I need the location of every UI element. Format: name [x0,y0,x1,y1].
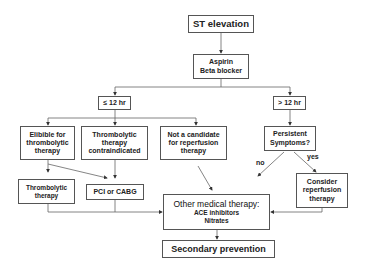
node-thrombolytic-therapy: Thrombolytic therapy [18,179,75,204]
node-text: ≤ 12 hr [103,99,126,107]
node-text: PCI or CABG [93,188,136,196]
node-title: Other medical therapy: [174,200,260,210]
edge-label-no: no [256,159,265,166]
node-text: Nitrates [204,217,228,224]
node-text: contraindicated [88,147,140,155]
node-consider-reperfusion: Consider reperfusion therapy [296,173,348,208]
node-text: therapy [35,147,60,155]
node-gt-12hr: > 12 hr [273,96,306,110]
node-aspirin-beta-blocker: Aspirin Beta blocker [193,54,249,79]
node-text: > 12 hr [278,99,301,107]
node-other-medical-therapy: Other medical therapy: ACE inhibitors Ni… [163,194,270,230]
node-thrombolytic-contraindicated: Thrombolytic therapy contraindicated [81,126,148,160]
node-text: Not a candidate [167,131,219,139]
node-text: Persistent [273,130,307,138]
node-text: Symptoms? [270,139,310,147]
node-text: Beta blocker [200,67,242,75]
node-eligible-thrombolytic: Elibible for thrombolytic therapy [20,126,75,160]
node-text: thrombolytic [26,139,68,147]
node-text: therapy [102,139,127,147]
node-text: therapy [35,192,58,199]
node-secondary-prevention: Secondary prevention [162,240,275,258]
node-pci-cabg: PCI or CABG [86,184,144,200]
node-text: Thrombolytic [26,184,67,191]
node-le-12hr: ≤ 12 hr [98,96,131,110]
node-text: ACE inhibitors [194,209,239,216]
edge-label-yes: yes [307,153,319,160]
node-text: Aspirin [209,58,233,66]
node-text: Thrombolytic [92,131,136,139]
node-persistent-symptoms: Persistent Symptoms? [264,126,316,151]
node-text: therapy [309,195,334,203]
node-st-elevation: ST elevation [188,15,254,33]
node-not-candidate: Not a candidate for reperfusion therapy [160,126,227,160]
node-text: Secondary prevention [171,244,266,254]
node-text: ST elevation [193,19,249,30]
node-text: for reperfusion [169,139,219,147]
node-text: Elibible for [29,131,65,139]
node-text: therapy [181,147,206,155]
node-text: reperfusion [303,186,342,194]
node-text: Consider [307,178,337,186]
